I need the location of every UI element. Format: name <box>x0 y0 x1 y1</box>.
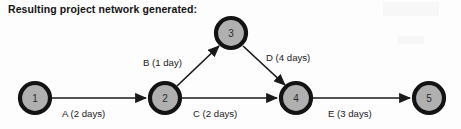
node-1: 1 <box>20 83 50 113</box>
project-network-figure: Resulting project network generated: A (… <box>0 0 461 129</box>
edge-B-2-to-3 <box>177 46 219 86</box>
node-1-label: 1 <box>32 93 38 104</box>
edges-group <box>52 46 410 98</box>
node-5-label: 5 <box>426 93 432 104</box>
edge-label-A: A (2 days) <box>62 108 105 119</box>
node-2: 2 <box>150 83 180 113</box>
edge-label-E: E (3 days) <box>328 108 372 119</box>
node-5: 5 <box>414 83 444 113</box>
node-2-label: 2 <box>162 93 168 104</box>
edge-labels-group: A (2 days) B (1 day) C (2 days) D (4 day… <box>62 52 372 119</box>
edge-label-B: B (1 day) <box>143 57 182 68</box>
node-4-label: 4 <box>293 93 299 104</box>
network-diagram-canvas: A (2 days) B (1 day) C (2 days) D (4 day… <box>0 0 461 129</box>
node-4: 4 <box>281 83 311 113</box>
node-3-label: 3 <box>228 28 234 39</box>
node-3: 3 <box>216 18 246 48</box>
edge-label-C: C (2 days) <box>193 108 237 119</box>
edge-label-D: D (4 days) <box>266 52 310 63</box>
